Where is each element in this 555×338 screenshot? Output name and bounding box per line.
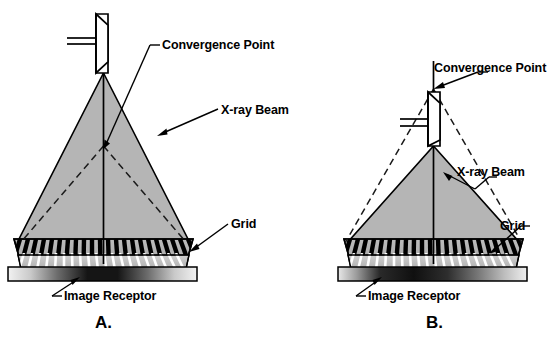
label-image-receptor-a: Image Receptor	[64, 289, 157, 303]
image-receptor-a	[8, 267, 197, 281]
panel-b: Convergence Point X-ray Beam Grid Image …	[338, 61, 547, 332]
panel-letter-b: B.	[426, 313, 443, 332]
image-receptor-b	[338, 267, 527, 281]
leader-x-ray-beam-a	[157, 109, 218, 136]
panel-a: Convergence Point X-ray Beam Grid Image …	[8, 14, 289, 332]
grid-a	[12, 239, 199, 270]
label-image-receptor-b: Image Receptor	[368, 289, 461, 303]
panel-letter-a: A.	[95, 313, 112, 332]
leader-grid-a	[189, 224, 228, 252]
x-ray-tube-a	[67, 14, 108, 73]
grid-alignment-figure: Convergence Point X-ray Beam Grid Image …	[0, 0, 555, 338]
label-grid-a: Grid	[231, 217, 256, 231]
label-convergence-point-a: Convergence Point	[162, 38, 275, 52]
x-ray-tube-b	[400, 92, 440, 146]
tube-anode-a	[96, 14, 108, 73]
label-grid-b: Grid	[500, 219, 525, 233]
label-x-ray-beam-b: X-ray Beam	[457, 165, 525, 179]
label-x-ray-beam-a: X-ray Beam	[221, 103, 289, 117]
receptor-bar-b	[338, 267, 527, 281]
label-convergence-point-b: Convergence Point	[434, 61, 547, 75]
receptor-bar-a	[8, 267, 197, 281]
